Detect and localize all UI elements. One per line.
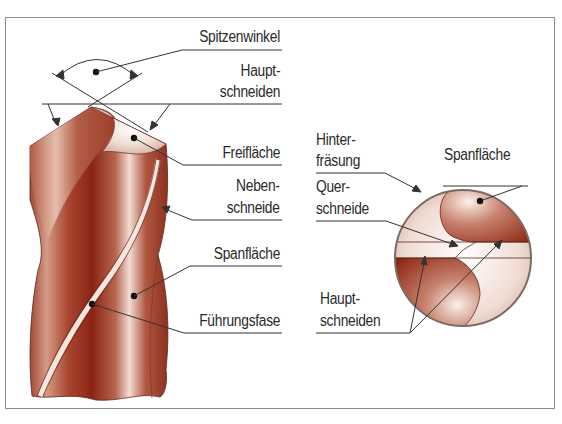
label-nebenschneide-line2: schneide	[227, 199, 280, 217]
label-hauptschneiden-line2: schneiden	[220, 83, 280, 101]
label-freiflaeche: Freifläche	[222, 144, 280, 162]
drill-diagram: Spitzenwinkel Haupt- schneiden Freifläch…	[0, 0, 562, 424]
label-spanflaeche-side: Spanfläche	[214, 245, 280, 263]
label-querschneide-line1: Quer-	[316, 178, 350, 196]
label-nebenschneide-line1: Neben-	[236, 177, 280, 195]
label-hauptschneiden-end-line2: schneiden	[320, 312, 380, 330]
label-hauptschneiden-line1: Haupt-	[240, 62, 280, 80]
label-querschneide-line2: schneide	[316, 200, 369, 218]
label-spitzenwinkel: Spitzenwinkel	[199, 28, 280, 46]
label-hauptschneiden-end-line1: Haupt-	[320, 290, 360, 308]
label-hinterfraesung-line1: Hinter-	[316, 131, 355, 149]
drill-end-view	[390, 180, 535, 330]
drill-side-view	[30, 107, 168, 400]
drill-illustration	[0, 0, 562, 424]
label-spanflaeche-end: Spanfläche	[444, 146, 510, 164]
label-fuehrungsfase: Führungsfase	[199, 312, 280, 330]
label-hinterfraesung-line2: fräsung	[316, 152, 360, 170]
